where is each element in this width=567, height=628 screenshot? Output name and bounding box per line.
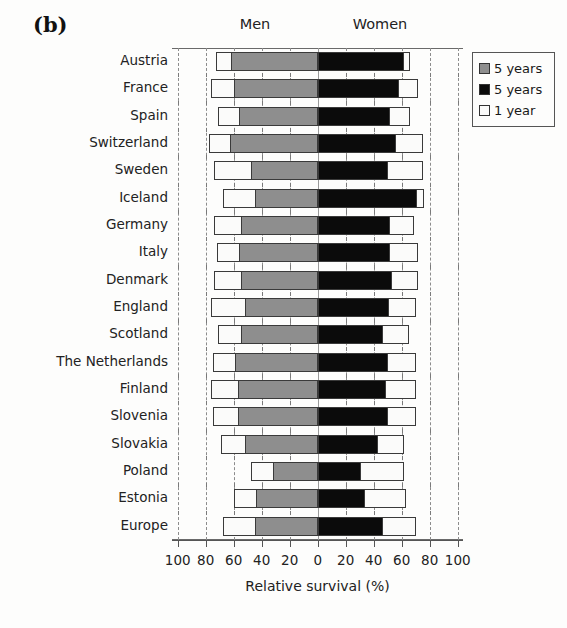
bar-row: Germany <box>172 212 463 239</box>
bar-row: Sweden <box>172 157 463 184</box>
x-tick-6 <box>346 540 347 547</box>
bar-women-5years <box>318 462 361 481</box>
bar-women-5years <box>318 298 389 317</box>
legend-label: 1 year <box>494 103 535 118</box>
bar-women-5years <box>318 435 378 454</box>
x-tick-2 <box>234 540 235 547</box>
bar-row: France <box>172 75 463 102</box>
bar-men-5years <box>235 353 318 372</box>
bar-women-5years <box>318 79 399 98</box>
bar-row: Estonia <box>172 485 463 512</box>
bar-women-5years <box>318 243 391 262</box>
row-label-slovenia: Slovenia <box>0 407 168 423</box>
bar-men-5years <box>234 79 318 98</box>
x-tick-7 <box>374 540 375 547</box>
bar-men-5years <box>273 462 318 481</box>
bar-row: Europe <box>172 513 463 540</box>
figure-panel-b: (b) Men Women AustriaFranceSpainSwitzerl… <box>0 0 567 628</box>
bar-women-5years <box>318 271 392 290</box>
row-label-england: England <box>0 298 168 314</box>
legend-label: 5 years <box>494 82 542 97</box>
bar-row: Slovakia <box>172 431 463 458</box>
bar-men-5years <box>241 216 318 235</box>
bar-men-5years <box>231 52 318 71</box>
bar-men-5years <box>245 298 318 317</box>
bar-women-5years <box>318 216 391 235</box>
bar-row: Slovenia <box>172 403 463 430</box>
bar-women-5years <box>318 517 384 536</box>
row-label-sweden: Sweden <box>0 161 168 177</box>
bar-men-5years <box>230 134 318 153</box>
plot-area: AustriaFranceSpainSwitzerlandSwedenIcela… <box>172 48 463 540</box>
row-label-iceland: Iceland <box>0 189 168 205</box>
bar-men-5years <box>241 271 318 290</box>
bar-men-5years <box>239 243 317 262</box>
bar-women-5years <box>318 52 405 71</box>
bar-row: Austria <box>172 48 463 75</box>
row-label-slovakia: Slovakia <box>0 435 168 451</box>
bar-women-5years <box>318 189 417 208</box>
legend-item: 5 years <box>479 79 549 100</box>
row-label-france: France <box>0 79 168 95</box>
x-tick-0 <box>178 540 179 547</box>
column-header-men: Men <box>210 16 300 32</box>
x-axis <box>172 540 463 550</box>
gray-swatch <box>479 63 490 74</box>
black-swatch <box>479 84 490 95</box>
bar-women-5years <box>318 134 396 153</box>
bar-row: Denmark <box>172 267 463 294</box>
x-tick-10 <box>458 540 459 547</box>
bar-women-5years <box>318 353 388 372</box>
x-tick-1 <box>206 540 207 547</box>
row-label-austria: Austria <box>0 52 168 68</box>
legend-label: 5 years <box>494 61 542 76</box>
x-tick-8 <box>402 540 403 547</box>
x-tick-3 <box>262 540 263 547</box>
legend-item: 1 year <box>479 100 549 121</box>
bar-men-5years <box>241 325 318 344</box>
bar-row: Poland <box>172 458 463 485</box>
row-label-europe: Europe <box>0 517 168 533</box>
x-tick-4 <box>290 540 291 547</box>
bar-row: Switzerland <box>172 130 463 157</box>
bar-men-5years <box>256 489 318 508</box>
bar-women-5years <box>318 161 388 180</box>
x-axis-title: Relative survival (%) <box>172 578 463 594</box>
panel-label: (b) <box>33 12 68 37</box>
x-tick-5 <box>318 540 319 547</box>
legend-item: 5 years <box>479 58 549 79</box>
bar-men-5years <box>238 380 318 399</box>
row-label-scotland: Scotland <box>0 325 168 341</box>
bar-men-5years <box>255 517 318 536</box>
column-header-women: Women <box>330 16 430 32</box>
row-label-denmark: Denmark <box>0 271 168 287</box>
bar-women-5years <box>318 489 366 508</box>
row-label-poland: Poland <box>0 462 168 478</box>
bar-men-5years <box>239 107 317 126</box>
bar-women-5years <box>318 107 391 126</box>
x-tick-9 <box>430 540 431 547</box>
row-label-germany: Germany <box>0 216 168 232</box>
bar-row: The Netherlands <box>172 349 463 376</box>
row-label-estonia: Estonia <box>0 489 168 505</box>
bar-row: Spain <box>172 103 463 130</box>
bar-row: Iceland <box>172 185 463 212</box>
row-label-the-netherlands: The Netherlands <box>0 353 168 369</box>
white-swatch <box>479 105 490 116</box>
row-label-italy: Italy <box>0 243 168 259</box>
bar-women-5years <box>318 380 387 399</box>
legend: 5 years5 years1 year <box>472 52 555 127</box>
bar-women-5years <box>318 325 384 344</box>
bar-men-5years <box>245 435 318 454</box>
bar-row: Scotland <box>172 321 463 348</box>
row-label-switzerland: Switzerland <box>0 134 168 150</box>
bar-men-5years <box>255 189 318 208</box>
bar-row: Italy <box>172 239 463 266</box>
bar-men-5years <box>251 161 318 180</box>
row-label-spain: Spain <box>0 107 168 123</box>
bar-women-5years <box>318 407 388 426</box>
x-tick-label-10: 100 <box>438 552 478 568</box>
bar-row: Finland <box>172 376 463 403</box>
row-label-finland: Finland <box>0 380 168 396</box>
bar-row: England <box>172 294 463 321</box>
